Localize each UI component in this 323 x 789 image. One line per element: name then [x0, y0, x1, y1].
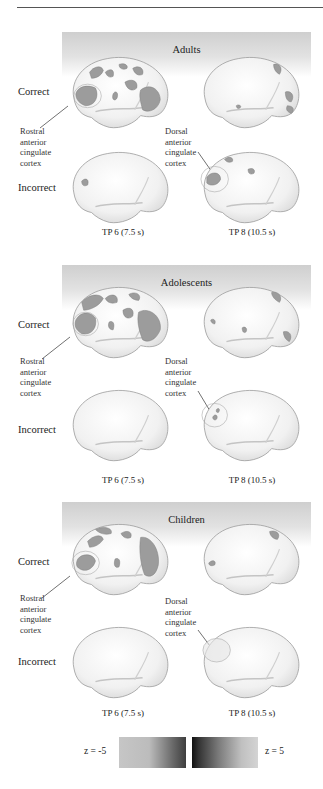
brain-correct-tp8: [197, 282, 305, 362]
brain-incorrect-tp6: [66, 147, 174, 227]
brain-incorrect-tp6: [66, 385, 174, 465]
brain-incorrect-tp8: [197, 385, 305, 465]
panel-adults: Adults Correct: [0, 32, 323, 282]
color-scale-positive-bar: [192, 737, 258, 768]
color-scale-max-label: z = 5: [265, 746, 284, 756]
region-label-rostral-acc: Rostral anterior cingulate cortex: [20, 126, 51, 168]
brain-incorrect-tp8: [197, 622, 305, 702]
row-label-correct: Correct: [18, 556, 50, 567]
color-scale-negative-bar: [119, 737, 186, 768]
panel-children: Children Correct Rostral anterior cingul…: [0, 502, 323, 752]
timepoint-label-tp8: TP 8 (10.5 s): [197, 708, 307, 718]
timepoint-label-tp6: TP 6 (7.5 s): [68, 708, 178, 718]
brain-correct-tp8: [197, 52, 305, 132]
brain-correct-tp6: [66, 519, 174, 599]
timepoint-label-tp8: TP 8 (10.5 s): [197, 475, 307, 485]
timepoint-label-tp8: TP 8 (10.5 s): [197, 227, 307, 237]
color-scale-min-label: z = -5: [84, 746, 106, 756]
timepoint-label-tp6: TP 6 (7.5 s): [68, 227, 178, 237]
brain-incorrect-tp8: [197, 147, 305, 227]
rostral-acc-pointer-line: [38, 102, 78, 132]
panel-adolescents: Adolescents Correct Ros: [0, 265, 323, 515]
row-label-incorrect: Incorrect: [18, 656, 56, 667]
timepoint-label-tp6: TP 6 (7.5 s): [68, 475, 178, 485]
rostral-acc-pointer-line: [40, 572, 80, 602]
brain-correct-tp8: [197, 519, 305, 599]
row-label-correct: Correct: [18, 86, 50, 97]
row-label-incorrect: Incorrect: [18, 424, 56, 435]
brain-correct-tp6: [66, 52, 174, 132]
header-rule: [17, 7, 323, 8]
brain-incorrect-tp6: [66, 622, 174, 702]
row-label-correct: Correct: [18, 319, 50, 330]
brain-correct-tp6: [66, 282, 174, 362]
rostral-acc-pointer-line: [40, 333, 80, 363]
row-label-incorrect: Incorrect: [18, 182, 56, 193]
